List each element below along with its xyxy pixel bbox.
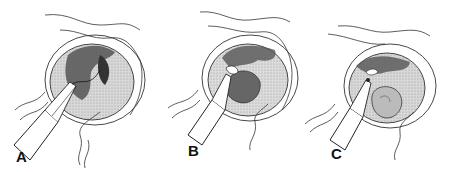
panel-label: B [188,143,199,158]
endoscopic-procedure-figure: A B [0,0,450,172]
panel-a: A [0,0,150,172]
panel-c: C [300,0,450,172]
panel-c-illustration [300,0,450,172]
panel-b-illustration [150,0,300,172]
panel-label: A [16,149,27,164]
panel-a-illustration [0,0,150,172]
panel-label: C [331,146,342,161]
panel-b: B [150,0,300,172]
